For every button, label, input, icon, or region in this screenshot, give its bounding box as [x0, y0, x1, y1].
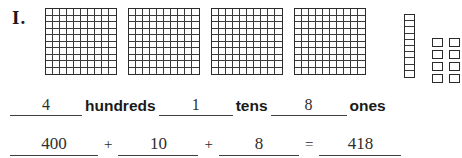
tens-rod-icon: [404, 14, 415, 78]
hundreds-flat-icon: [45, 8, 117, 75]
ones-cube-icon: [432, 38, 443, 47]
tens-label: tens: [233, 98, 271, 117]
equation-addend-ones-blank[interactable]: 8: [219, 127, 299, 156]
ones-cubes-group: [432, 38, 462, 83]
ones-label: ones: [347, 98, 389, 117]
hundreds-label: hundreds: [82, 98, 159, 117]
ones-answer-blank[interactable]: 8: [271, 89, 347, 116]
equation-addend-hundreds-value: 400: [10, 135, 98, 152]
hundreds-answer-value: 4: [10, 97, 82, 113]
ones-cube-icon: [449, 50, 460, 59]
place-value-sentence: 4 hundreds 1 tens 8 ones: [10, 86, 446, 116]
tens-answer-value: 1: [159, 97, 233, 113]
expanded-form-equation: 400 + 10 + 8 = 418: [10, 124, 446, 156]
hundreds-answer-blank[interactable]: 4: [10, 89, 82, 116]
ones-cube-icon: [449, 38, 460, 47]
ones-cube-icon: [432, 62, 443, 71]
hundreds-flat-icon: [294, 8, 366, 75]
problem-number: I.: [12, 8, 26, 27]
equation-addend-ones-value: 8: [219, 135, 299, 152]
hundreds-flat-icon: [211, 8, 283, 75]
equation-addend-hundreds-blank[interactable]: 400: [10, 127, 98, 156]
ones-cube-icon: [432, 50, 443, 59]
ones-answer-value: 8: [271, 97, 347, 113]
ones-cube-icon: [449, 62, 460, 71]
hundreds-flat-icon: [128, 8, 200, 75]
equals-operator: =: [299, 137, 319, 156]
equation-sum-value: 418: [319, 135, 401, 152]
ones-cube-icon: [432, 74, 443, 83]
equation-sum-blank[interactable]: 418: [319, 127, 401, 156]
equation-addend-tens-blank[interactable]: 10: [118, 127, 198, 156]
plus-operator-2: +: [198, 137, 218, 156]
plus-operator-1: +: [98, 137, 118, 156]
ones-cube-icon: [449, 74, 460, 83]
equation-addend-tens-value: 10: [118, 135, 198, 152]
tens-answer-blank[interactable]: 1: [159, 89, 233, 116]
